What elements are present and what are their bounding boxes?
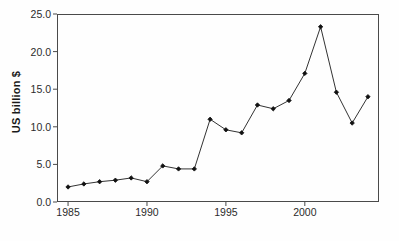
data-point-markers bbox=[66, 25, 370, 190]
data-point-marker bbox=[334, 90, 338, 94]
x-tick-label: 1990 bbox=[127, 206, 167, 218]
y-tick-label: 10.0 bbox=[9, 121, 51, 133]
data-point-marker bbox=[287, 98, 291, 102]
x-tick-label: 1985 bbox=[48, 206, 88, 218]
y-tick-label: 20.0 bbox=[9, 46, 51, 58]
data-point-marker bbox=[176, 167, 180, 171]
y-tick-label: 15.0 bbox=[9, 83, 51, 95]
y-tick-label: 5.0 bbox=[9, 158, 51, 170]
data-point-marker bbox=[192, 167, 196, 171]
data-series-line bbox=[68, 27, 368, 187]
y-tick-label: 0.0 bbox=[9, 196, 51, 208]
data-point-marker bbox=[239, 131, 243, 135]
data-point-marker bbox=[350, 121, 354, 125]
data-point-marker bbox=[129, 176, 133, 180]
data-point-marker bbox=[303, 71, 307, 75]
data-point-marker bbox=[271, 107, 275, 111]
data-point-marker bbox=[82, 182, 86, 186]
axis-ticks bbox=[53, 14, 305, 206]
data-point-marker bbox=[366, 95, 370, 99]
data-point-marker bbox=[255, 103, 259, 107]
x-tick-label: 1995 bbox=[206, 206, 246, 218]
data-point-marker bbox=[97, 179, 101, 183]
chart-figure: US billion $ 0.05.010.015.020.025.0 1985… bbox=[0, 0, 399, 241]
data-point-marker bbox=[113, 178, 117, 182]
x-tick-label: 2000 bbox=[285, 206, 325, 218]
y-tick-label: 25.0 bbox=[9, 8, 51, 20]
data-point-marker bbox=[66, 185, 70, 189]
chart-canvas bbox=[0, 0, 399, 241]
data-point-marker bbox=[318, 25, 322, 29]
